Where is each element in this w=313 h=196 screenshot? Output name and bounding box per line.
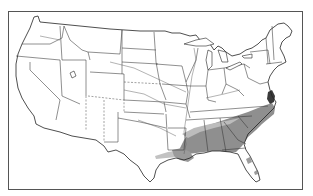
great-salt-lake — [70, 71, 76, 78]
lake-erie — [226, 62, 242, 70]
us-range-map — [0, 0, 313, 196]
lake-ontario — [242, 54, 252, 58]
range-dense — [178, 103, 275, 154]
lake-superior — [184, 38, 214, 46]
lake-huron — [218, 50, 228, 62]
lake-michigan — [206, 50, 212, 70]
